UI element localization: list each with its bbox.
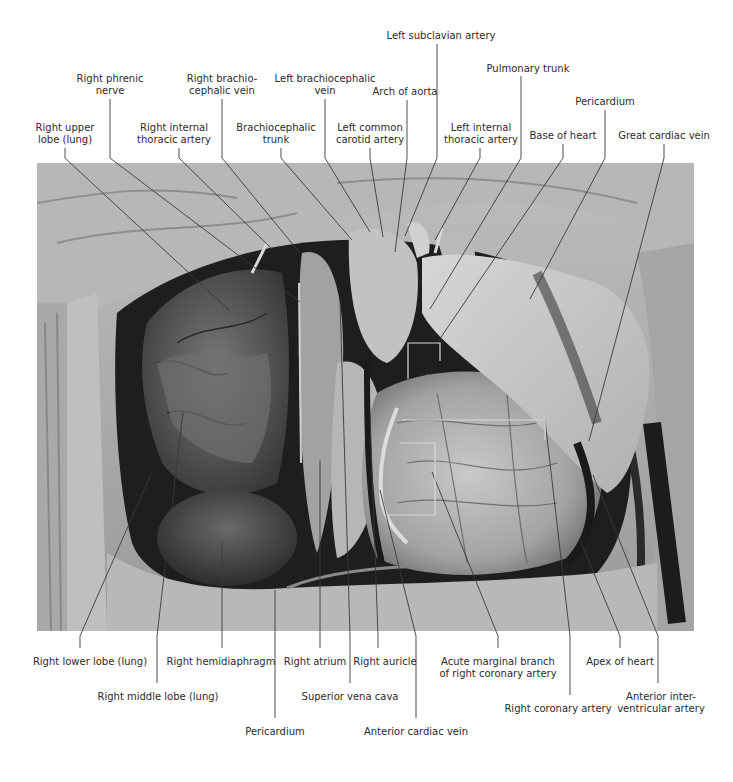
label-left-subclavian-artery: Left subclavian artery bbox=[387, 30, 496, 42]
label-pericardium-bottom: Pericardium bbox=[245, 726, 304, 738]
label-right-auricle: Right auricle bbox=[353, 656, 416, 668]
label-left-internal-thoracic-artery: Left internalthoracic artery bbox=[444, 122, 518, 147]
label-pericardium-top: Pericardium bbox=[575, 96, 634, 108]
label-base-of-heart: Base of heart bbox=[530, 130, 597, 142]
label-apex-of-heart: Apex of heart bbox=[586, 656, 654, 668]
label-superior-vena-cava: Superior vena cava bbox=[302, 691, 399, 703]
label-right-hemidiaphragm: Right hemidiaphragm bbox=[167, 656, 276, 668]
label-right-upper-lobe: Right upperlobe (lung) bbox=[36, 122, 95, 147]
label-left-common-carotid-artery: Left commoncarotid artery bbox=[336, 122, 404, 147]
label-brachiocephalic-trunk: Brachiocephalictrunk bbox=[236, 122, 315, 147]
label-anterior-cardiac-vein: Anterior cardiac vein bbox=[364, 726, 468, 738]
label-right-coronary-artery: Right coronary artery bbox=[504, 703, 611, 715]
label-pulmonary-trunk: Pulmonary trunk bbox=[486, 63, 569, 75]
label-right-phrenic-nerve: Right phrenicnerve bbox=[77, 73, 144, 98]
thorax-dissection-photo bbox=[37, 163, 694, 631]
label-anterior-interventricular-artery: Anterior inter-ventricular artery bbox=[617, 691, 705, 716]
label-right-lower-lobe: Right lower lobe (lung) bbox=[33, 656, 147, 668]
label-right-middle-lobe: Right middle lobe (lung) bbox=[97, 691, 218, 703]
label-right-internal-thoracic-artery: Right internalthoracic artery bbox=[137, 122, 211, 147]
label-left-brachiocephalic-vein: Left brachiocephalicvein bbox=[275, 73, 376, 98]
label-right-brachiocephalic-vein: Right brachio-cephalic vein bbox=[187, 73, 258, 98]
label-acute-marginal-branch: Acute marginal branchof right coronary a… bbox=[439, 656, 556, 681]
label-great-cardiac-vein: Great cardiac vein bbox=[618, 130, 710, 142]
anatomy-figure: Right upperlobe (lung) Right phrenicnerv… bbox=[0, 0, 733, 782]
label-arch-of-aorta: Arch of aorta bbox=[373, 86, 438, 98]
label-right-atrium: Right atrium bbox=[284, 656, 347, 668]
